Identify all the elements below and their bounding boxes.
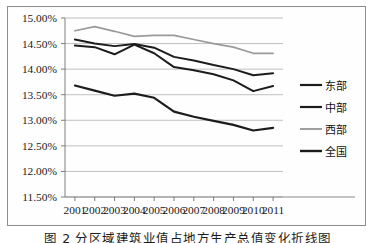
y-axis-tick-label: 14.50% xyxy=(22,38,58,50)
legend-label-中部[interactable]: 中部 xyxy=(325,101,347,115)
y-axis-tick-label: 15.00% xyxy=(22,12,58,24)
axis-ticks xyxy=(61,18,273,201)
series-line-全国 xyxy=(75,86,273,131)
series-line-中部 xyxy=(75,39,273,75)
legend-label-东部[interactable]: 东部 xyxy=(325,79,347,93)
y-axis-tick-label: 12.00% xyxy=(22,165,58,177)
series-line-西部 xyxy=(75,27,273,54)
y-axis-labels: 15.00%14.50%14.00%13.50%13.00%12.50%12.0… xyxy=(22,12,58,203)
data-series xyxy=(75,27,273,131)
chart-plot-area: 15.00%14.50%14.00%13.50%13.00%12.50%12.0… xyxy=(8,7,365,225)
chart-legend: 东部中部西部全国 xyxy=(300,79,347,159)
y-axis-tick-label: 11.50% xyxy=(22,191,57,203)
y-axis-tick-label: 13.00% xyxy=(22,114,58,126)
x-axis-labels: 2001200220032004200520062007200820092010… xyxy=(64,204,285,216)
figure-frame: 15.00%14.50%14.00%13.50%13.00%12.50%12.0… xyxy=(7,6,366,226)
x-axis-tick-label: 2011 xyxy=(262,204,285,216)
series-line-东部 xyxy=(75,45,273,92)
y-axis-tick-label: 14.00% xyxy=(22,63,58,75)
line-chart: 15.00%14.50%14.00%13.50%13.00%12.50%12.0… xyxy=(8,7,365,225)
y-axis-tick-label: 13.50% xyxy=(22,89,58,101)
legend-label-西部[interactable]: 西部 xyxy=(325,123,347,137)
y-axis-tick-label: 12.50% xyxy=(22,140,58,152)
legend-label-全国[interactable]: 全国 xyxy=(325,145,347,159)
figure-caption: 图 2 分区域建筑业值占地方生产总值变化折线图 xyxy=(0,232,376,243)
